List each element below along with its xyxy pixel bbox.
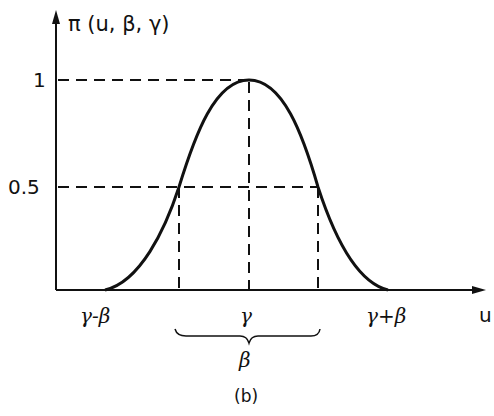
brace-label-beta: β bbox=[239, 350, 251, 370]
x-axis-label: u bbox=[479, 305, 492, 325]
x-tick-gamma-minus-beta: γ-β bbox=[80, 306, 110, 326]
x-tick-gamma-plus-beta: γ+β bbox=[366, 306, 406, 326]
x-axis-arrow-icon bbox=[472, 286, 486, 294]
y-axis-label: π (u, β, γ) bbox=[68, 14, 170, 35]
x-tick-gamma: γ bbox=[240, 306, 252, 326]
y-axis-arrow-icon bbox=[52, 10, 60, 24]
beta-brace bbox=[175, 329, 320, 343]
y-tick-1: 1 bbox=[33, 70, 46, 90]
y-tick-0.5: 0.5 bbox=[8, 177, 40, 197]
figure-caption: (b) bbox=[234, 388, 258, 405]
membership-curve bbox=[105, 80, 388, 290]
